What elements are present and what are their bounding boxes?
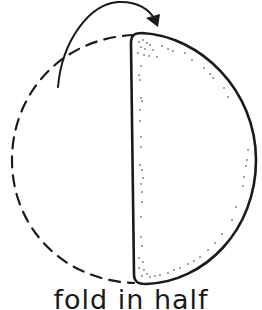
folded-half-outline (131, 33, 256, 284)
fold-in-half-diagram (0, 0, 262, 310)
unfolded-half-outline (12, 35, 134, 283)
diagram-caption: fold in half (0, 285, 262, 310)
